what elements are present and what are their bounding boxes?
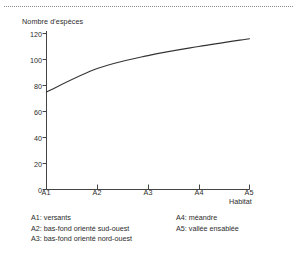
figure-container: Nombre d'espèces 120 100 80 60 40: [0, 0, 297, 262]
y-axis-ticks: [43, 34, 47, 190]
x-tick-label-a3: A3: [137, 188, 159, 197]
y-tick-label-40: 40: [20, 134, 42, 143]
legend-item-a2: A2: bas-fond orienté sud-ouest: [31, 224, 132, 235]
legend-item-a1: A1: versants: [31, 213, 132, 224]
x-tick-label-a5: A5: [238, 188, 260, 197]
x-tick-label-a2: A2: [86, 188, 108, 197]
data-series-line: [47, 39, 250, 92]
y-tick-label-60: 60: [20, 108, 42, 117]
y-tick-label-100: 100: [20, 56, 42, 65]
legend-column-left: A1: versants A2: bas-fond orienté sud-ou…: [31, 213, 132, 245]
x-axis-title: Habitat: [229, 197, 252, 206]
legend-item-a4: A4: méandre: [176, 213, 239, 224]
legend-item-a5: A5: vallée ensablée: [176, 224, 239, 235]
legend-item-a3: A3: bas-fond orienté nord-ouest: [31, 234, 132, 245]
y-tick-label-20: 20: [20, 160, 42, 169]
y-tick-label-120: 120: [20, 30, 42, 39]
y-tick-label-80: 80: [20, 82, 42, 91]
x-tick-label-a1: A1: [35, 188, 57, 197]
x-tick-label-a4: A4: [188, 188, 210, 197]
legend-column-right: A4: méandre A5: vallée ensablée: [176, 213, 239, 234]
